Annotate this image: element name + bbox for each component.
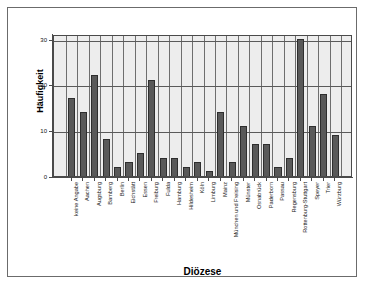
x-tick-label: Speyer	[314, 182, 320, 200]
bar	[240, 126, 247, 176]
x-tick-label: Fulda	[165, 182, 171, 196]
x-tick-label: Bamberg	[107, 182, 113, 205]
x-tick-label: Regensburg	[291, 182, 297, 212]
x-tick-mark	[128, 177, 129, 181]
bar	[252, 144, 259, 176]
x-tick-mark	[94, 177, 95, 181]
x-tick-mark	[162, 177, 163, 181]
x-tick-label: München und Freising	[233, 182, 239, 237]
bar	[183, 167, 190, 176]
bar	[194, 162, 201, 176]
x-axis-tick-labels: keine AngabeAachenAugsburgBambergBerlinE…	[53, 182, 352, 262]
x-tick-label: Limburg	[210, 182, 216, 202]
x-tick-mark	[139, 177, 140, 181]
bars-layer	[54, 36, 351, 176]
x-tick-label: Eichstätt	[130, 182, 136, 203]
y-tick-label: 20	[28, 82, 47, 88]
bar	[80, 112, 87, 176]
x-axis-title: Diözese	[53, 266, 352, 277]
bar	[320, 94, 327, 176]
bar	[332, 135, 339, 176]
x-tick-label: Augsburg	[96, 182, 102, 206]
x-tick-label: Freiburg	[153, 182, 159, 203]
x-tick-label: Trier	[325, 182, 331, 193]
x-tick-label: Aachen	[84, 182, 90, 201]
bar	[160, 158, 167, 176]
plot-area	[53, 35, 352, 177]
bar	[148, 80, 155, 176]
x-tick-mark	[334, 177, 335, 181]
bar	[125, 162, 132, 176]
x-tick-label: Berlin	[119, 182, 125, 196]
bar	[217, 112, 224, 176]
y-tick-label: 0	[28, 174, 47, 180]
chart-outer-frame: Häufigkeit 0102030 keine AngabeAachenAug…	[7, 7, 357, 277]
x-tick-mark	[323, 177, 324, 181]
x-tick-mark	[266, 177, 267, 181]
bar	[171, 158, 178, 176]
x-tick-mark	[82, 177, 83, 181]
x-tick-label: Hamburg	[176, 182, 182, 205]
x-tick-mark	[174, 177, 175, 181]
bar	[137, 153, 144, 176]
bar	[309, 126, 316, 176]
bar	[68, 98, 75, 176]
bar	[103, 139, 110, 176]
x-tick-mark	[220, 177, 221, 181]
y-tick-label: 30	[28, 37, 47, 43]
x-tick-mark	[288, 177, 289, 181]
x-tick-label: Köln	[199, 182, 205, 193]
bar	[91, 75, 98, 176]
x-tick-mark	[185, 177, 186, 181]
bar	[274, 167, 281, 176]
y-tick-label: 10	[28, 128, 47, 134]
x-tick-label: Würzburg	[336, 182, 342, 206]
x-tick-mark	[231, 177, 232, 181]
x-tick-label: Rottenburg-Stuttgart	[302, 182, 308, 233]
x-tick-label: Osnabrück	[256, 182, 262, 209]
x-tick-mark	[208, 177, 209, 181]
chart-figure: Häufigkeit 0102030 keine AngabeAachenAug…	[0, 0, 366, 286]
x-tick-mark	[300, 177, 301, 181]
bar	[297, 39, 304, 176]
x-tick-label: Mainz	[222, 182, 228, 197]
x-tick-mark	[117, 177, 118, 181]
x-tick-label: Paderborn	[268, 182, 274, 208]
bar	[263, 144, 270, 176]
x-tick-mark	[243, 177, 244, 181]
x-tick-mark	[71, 177, 72, 181]
x-tick-mark	[277, 177, 278, 181]
bar	[114, 167, 121, 176]
bar	[229, 162, 236, 176]
x-tick-mark	[151, 177, 152, 181]
x-tick-label: Passau	[279, 182, 285, 201]
x-tick-label: keine Angabe	[73, 182, 79, 216]
x-tick-mark	[254, 177, 255, 181]
y-axis-ticks: 0102030	[8, 8, 52, 286]
x-tick-label: Münster	[245, 182, 251, 202]
x-tick-label: Essen	[142, 182, 148, 198]
x-tick-mark	[311, 177, 312, 181]
x-tick-label: Hildesheim	[188, 182, 194, 210]
x-tick-mark	[105, 177, 106, 181]
bar	[286, 158, 293, 176]
bar	[206, 171, 213, 176]
x-tick-mark	[197, 177, 198, 181]
